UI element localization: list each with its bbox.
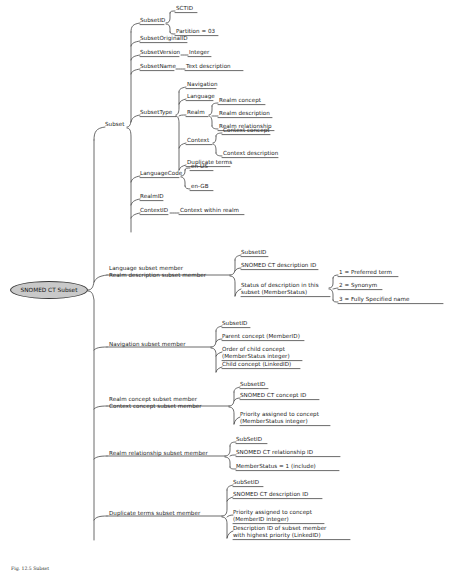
node-dm-highest-priority[interactable]: Description ID of subset member with hig…	[233, 525, 326, 538]
node-nm-order-of-child-concept[interactable]: Order of child concept (MemberStatus int…	[222, 346, 290, 359]
node-language[interactable]: Language	[187, 93, 215, 100]
node-subset-original-id[interactable]: SubsetOriginalID	[140, 35, 188, 42]
node-language-subset-member[interactable]: Language subset member Realm description…	[109, 265, 206, 278]
node-dm-subset-id[interactable]: SubSetID	[233, 479, 259, 486]
node-nm-child-concept[interactable]: Child concept (LinkedID)	[222, 361, 291, 368]
node-dm-priority[interactable]: Priority assigned to concept (MemberID i…	[233, 509, 312, 522]
node-context[interactable]: Context	[187, 137, 209, 144]
node-subset-id[interactable]: SubsetID	[140, 17, 165, 24]
node-concept-subset-member[interactable]: Realm concept subset member Context conc…	[109, 396, 202, 409]
node-context-description[interactable]: Context description	[223, 150, 278, 157]
node-cm-concept-id[interactable]: SNOMED CT concept ID	[240, 392, 306, 399]
node-relationship-subset-member[interactable]: Realm relationship subset member	[109, 450, 208, 457]
node-context-id[interactable]: ContextID	[140, 207, 168, 214]
node-duplicate-subset-member[interactable]: Duplicate terms subset member	[109, 510, 200, 517]
node-status-fully-specified-name[interactable]: 3 = Fully Specified name	[339, 296, 410, 303]
node-en-us[interactable]: en-US	[191, 163, 208, 170]
node-partition[interactable]: Partition = 03	[176, 28, 215, 35]
figure-caption: Fig. 12.5 Subset	[11, 566, 49, 571]
node-cm-subset-id[interactable]: SubsetID	[240, 381, 265, 388]
node-sctid[interactable]: SCTID	[176, 5, 193, 12]
node-dm-description-id[interactable]: SNOMED CT description ID	[233, 491, 308, 498]
node-lm-status[interactable]: Status of description in this subset (Me…	[241, 282, 319, 295]
node-language-code[interactable]: LanguageCode	[140, 170, 182, 177]
root-node[interactable]: SNOMED CT Subset	[10, 281, 88, 299]
node-context-within-realm[interactable]: Context within realm	[180, 207, 239, 214]
node-subset-type[interactable]: SubsetType	[140, 109, 172, 116]
node-navigation-subset-member[interactable]: Navigation subset member	[109, 341, 186, 348]
node-status-synonym[interactable]: 2 = Synonym	[339, 282, 377, 289]
node-nm-parent-concept[interactable]: Parent concept (MemberID)	[222, 333, 300, 340]
node-realm[interactable]: Realm	[187, 109, 205, 116]
node-integer[interactable]: Integer	[189, 49, 209, 56]
node-lm-subset-id[interactable]: SubsetID	[241, 249, 266, 256]
node-realm-concept[interactable]: Realm concept	[219, 97, 261, 104]
root-node-label: SNOMED CT Subset	[21, 287, 78, 293]
node-nm-subset-id[interactable]: SubsetID	[222, 320, 247, 327]
node-context-concept[interactable]: Context concept	[223, 127, 269, 134]
node-rm-relationship-id[interactable]: SNOMED CT relationship ID	[236, 449, 313, 456]
node-rm-member-status[interactable]: MemberStatus = 1 (include)	[236, 463, 316, 470]
node-subset-name[interactable]: SubsetName	[140, 63, 176, 70]
node-cm-priority[interactable]: Priority assigned to concept (MemberStat…	[240, 411, 319, 424]
mindmap-canvas: SNOMED CT Subset Subset SubsetID SCTID P…	[0, 0, 463, 577]
node-realm-description[interactable]: Realm description	[219, 110, 270, 117]
node-subset-version[interactable]: SubsetVersion	[140, 49, 180, 56]
node-navigation[interactable]: Navigation	[187, 81, 217, 88]
node-en-gb[interactable]: en-GB	[191, 183, 209, 190]
node-lm-description-id[interactable]: SNOMED CT description ID	[241, 262, 316, 269]
node-subset[interactable]: Subset	[105, 121, 124, 128]
node-status-preferred-term[interactable]: 1 = Preferred term	[339, 269, 392, 276]
node-text-description[interactable]: Text description	[186, 63, 231, 70]
node-rm-subset-id[interactable]: SubSetID	[236, 436, 262, 443]
node-realm-id[interactable]: RealmID	[140, 193, 164, 200]
